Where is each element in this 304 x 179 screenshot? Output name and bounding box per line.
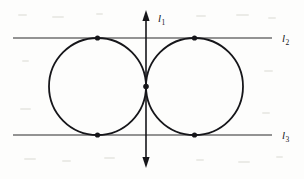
scan-speck: [238, 161, 250, 163]
scan-speck: [52, 16, 64, 18]
scan-speck: [264, 70, 273, 72]
tangent-point-right-top: [192, 35, 197, 40]
scan-speck: [104, 157, 115, 159]
scan-speck: [24, 158, 36, 160]
geometry-figure: l1l2l3: [0, 0, 304, 179]
tangent-point-circles: [143, 84, 149, 90]
scan-speck: [96, 13, 103, 15]
figure-background: [0, 0, 304, 179]
scan-speck: [22, 60, 29, 62]
figure-canvas: l1l2l3: [0, 0, 304, 179]
label-l2-subscript: 2: [286, 38, 290, 47]
scan-speck: [268, 17, 276, 19]
scan-speck: [196, 15, 206, 17]
scan-speck: [18, 14, 27, 16]
tangent-point-left-bottom: [95, 132, 100, 137]
label-l3-subscript: 3: [286, 135, 290, 144]
label-l1-subscript: 1: [162, 18, 166, 27]
scan-speck: [62, 160, 71, 162]
scan-speck: [236, 14, 249, 16]
scan-speck: [276, 156, 283, 158]
scan-speck: [196, 159, 204, 161]
scan-speck: [20, 108, 31, 110]
tangent-point-right-bottom: [192, 132, 197, 137]
scan-speck: [262, 112, 270, 114]
tangent-point-left-top: [95, 35, 100, 40]
